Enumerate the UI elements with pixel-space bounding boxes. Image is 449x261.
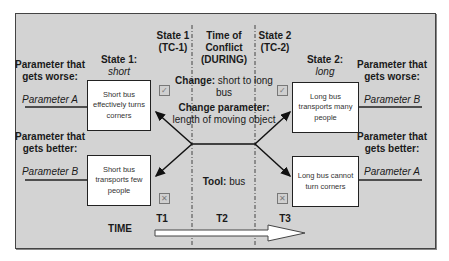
change-value: short to long bus <box>216 75 273 98</box>
right-better-label: Parameter that gets better: <box>352 131 432 155</box>
left-top-box: Short bus effectively turns corners <box>87 80 151 131</box>
right-top-box: Long bus transports many people <box>292 82 359 133</box>
tool-text: Tool: bus <box>194 176 254 188</box>
right-bottom-box: Long bus cannot turn corners <box>292 156 359 207</box>
right-top-box-text: Long bus transports many people <box>297 92 354 122</box>
right-worse-label: Parameter that gets worse: <box>352 59 432 83</box>
left-better-label: Parameter that gets better: <box>10 131 90 155</box>
header-state1: State 1 (TC-1) <box>154 30 192 54</box>
time-label-t2: T2 <box>212 213 232 225</box>
change-param-value: length of moving object <box>173 114 276 125</box>
right-better-param: Parameter A <box>352 166 432 178</box>
left-worse-param: Parameter A <box>10 94 90 106</box>
left-top-box-text: Short bus effectively turns corners <box>92 90 146 120</box>
right-worse-param: Parameter B <box>352 94 432 106</box>
left-bottom-box: Short bus transports few people <box>87 155 151 206</box>
checkbox-checked-icon: ✓ <box>277 85 288 96</box>
state1-value: short <box>84 66 154 78</box>
left-bottom-box-text: Short bus transports few people <box>92 165 146 195</box>
right-bottom-box-text: Long bus cannot turn corners <box>297 171 354 191</box>
change-label: Change: <box>175 75 215 86</box>
checkbox-x-icon: ✕ <box>277 193 288 204</box>
tool-value: bus <box>229 176 245 187</box>
left-worse-label: Parameter that gets worse: <box>10 59 90 83</box>
state2-title: State 2: <box>290 54 360 66</box>
arrow-to-left-bottom <box>156 144 192 176</box>
change-param-label: Change parameter: <box>178 102 269 113</box>
state2-value: long <box>290 66 360 78</box>
time-arrow <box>155 225 305 241</box>
tool-label: Tool: <box>203 176 227 187</box>
header-state2: State 2 (TC-2) <box>256 30 294 54</box>
arrow-to-right-bottom <box>255 144 290 176</box>
checkbox-x-icon: ✕ <box>159 193 170 204</box>
time-label-t3: T3 <box>275 213 295 225</box>
time-label-t1: T1 <box>152 213 172 225</box>
change-text: Change: short to long bus <box>174 75 274 99</box>
state1-title: State 1: <box>84 54 154 66</box>
change-param-text: Change parameter: length of moving objec… <box>164 102 284 126</box>
checkbox-checked-icon: ✓ <box>159 85 170 96</box>
time-axis-label: TIME <box>100 223 140 235</box>
header-conflict: Time of Conflict (DURING) <box>196 30 252 66</box>
left-better-param: Parameter B <box>10 166 90 178</box>
